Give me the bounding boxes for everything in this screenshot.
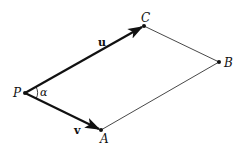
label-a: A	[99, 132, 109, 146]
label-alpha: α	[40, 86, 48, 99]
label-u: v	[73, 124, 81, 137]
point-b	[217, 60, 221, 64]
edge-a-b	[101, 62, 219, 130]
label-b: B	[223, 56, 233, 70]
label-p: P	[12, 86, 22, 100]
vector-v	[25, 27, 142, 93]
label-v: u	[98, 36, 106, 49]
angle-arc	[36, 87, 38, 99]
edge-c-b	[144, 26, 219, 62]
point-p	[23, 91, 27, 95]
parallelogram-diagram: P A B C u v α	[0, 0, 242, 146]
label-c: C	[141, 11, 150, 25]
